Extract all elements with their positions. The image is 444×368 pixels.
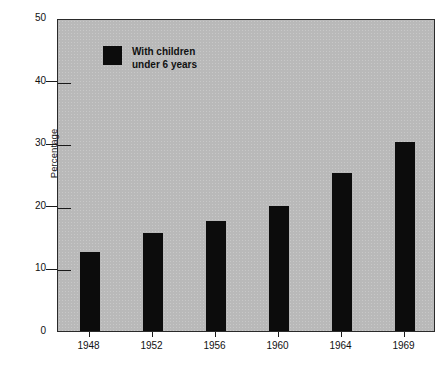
bar [395, 142, 415, 331]
x-axis-tick-label: 1969 [374, 340, 434, 351]
bar [332, 173, 352, 331]
y-axis-tick-mark [46, 206, 57, 207]
x-axis-tick-mark [215, 332, 216, 337]
legend-label-line-2: under 6 years [132, 58, 197, 71]
bar [269, 206, 289, 331]
y-axis-tick-label: 10 [35, 262, 46, 273]
bar [143, 233, 163, 331]
x-axis-tick-mark [152, 332, 153, 337]
y-axis-tick-label: 50 [35, 12, 46, 23]
x-axis-tick-label: 1964 [311, 340, 371, 351]
x-axis-tick-mark [341, 332, 342, 337]
y-axis-tick-label: 20 [35, 200, 46, 211]
legend-swatch-with-children-under-6 [103, 46, 122, 65]
x-axis-tick-mark [89, 332, 90, 337]
y-axis-tick-mark [46, 269, 57, 270]
x-axis-tick-label: 1948 [59, 340, 119, 351]
y-axis-label: Percentage [48, 99, 59, 209]
x-axis-tick-label: 1952 [122, 340, 182, 351]
y-axis-tick-label: 40 [35, 75, 46, 86]
legend-label: With children under 6 years [132, 45, 197, 71]
y-axis-tick-label: 30 [35, 137, 46, 148]
bar [206, 221, 226, 331]
legend: With children under 6 years [103, 45, 197, 71]
bar-chart-figure: Percentage 01020304050 19481952195619601… [0, 0, 444, 368]
x-axis-tick-label: 1956 [185, 340, 245, 351]
y-axis-tick-mark [46, 144, 57, 145]
bar [80, 252, 100, 331]
x-axis-tick-mark [404, 332, 405, 337]
y-axis-tick-label: 0 [40, 325, 46, 336]
y-axis-tick-mark [46, 81, 57, 82]
legend-label-line-1: With children [132, 45, 197, 58]
x-axis-tick-mark [278, 332, 279, 337]
x-axis-tick-label: 1960 [248, 340, 308, 351]
